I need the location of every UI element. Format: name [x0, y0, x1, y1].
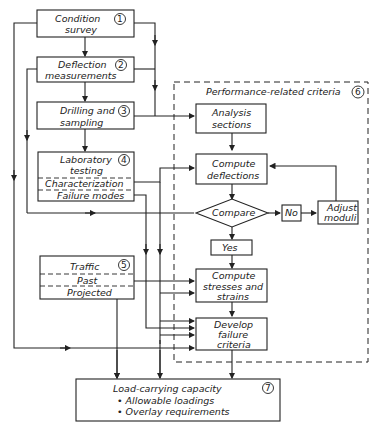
condition-survey-box: Condition survey 1: [37, 10, 134, 37]
develop-failure-criteria-box: Develop failure criteria: [196, 318, 267, 350]
bullet-overlay-requirements: • Overlay requirements: [117, 406, 230, 417]
box-label: Condition: [55, 13, 100, 24]
yes-label: Yes: [222, 242, 238, 253]
compute-stresses-box: Compute stresses and strains: [196, 269, 267, 302]
flowchart: Performance-related criteria 6: [0, 0, 381, 432]
analysis-sections-box: Analysis sections: [196, 104, 266, 133]
box-label: sections: [212, 119, 251, 130]
box-label: deflections: [207, 170, 259, 181]
step-number-4: 4: [121, 155, 127, 165]
compare-decision: Compare: [196, 199, 268, 227]
box-label: strains: [217, 291, 249, 302]
failure-modes-label: Failure modes: [57, 190, 124, 201]
box-label: moduli: [324, 212, 357, 223]
step-number-6: 6: [355, 87, 361, 97]
box-label: testing: [70, 165, 103, 176]
box-label: Compute: [212, 158, 255, 169]
box-label: Analysis: [211, 107, 251, 118]
box-label: Compute: [212, 270, 255, 281]
load-capacity-title: Load-carrying capacity: [113, 383, 222, 394]
step-number-3: 3: [121, 106, 127, 116]
adjust-moduli-box: Adjust moduli: [318, 201, 358, 224]
box-label: measurements: [45, 70, 116, 81]
no-box: No: [282, 205, 301, 221]
box-label: Traffic: [70, 261, 100, 272]
box-label: criteria: [217, 339, 251, 350]
step-number-7: 7: [265, 383, 271, 393]
step-number-5: 5: [121, 260, 127, 270]
box-label: Drilling and: [60, 105, 116, 116]
compare-label: Compare: [212, 207, 255, 218]
drilling-sampling-box: Drilling and sampling 3: [37, 102, 134, 129]
performance-group-title: Performance-related criteria: [206, 86, 341, 97]
projected-label: Projected: [67, 287, 113, 298]
no-label: No: [285, 207, 298, 218]
step-number-2: 2: [118, 60, 124, 70]
compute-deflections-box: Compute deflections: [196, 154, 267, 184]
characterization-label: Characterization: [45, 178, 124, 189]
bullet-allowable-loadings: • Allowable loadings: [117, 395, 214, 406]
yes-box: Yes: [211, 240, 252, 255]
box-label: Deflection: [58, 59, 107, 70]
deflection-measurements-box: Deflection measurements 2: [37, 57, 134, 82]
step-number-1: 1: [117, 14, 123, 24]
past-label: Past: [77, 275, 98, 286]
load-carrying-capacity-box: Load-carrying capacity • Allowable loadi…: [76, 379, 280, 421]
laboratory-testing-box: Laboratory testing 4 Characterization Fa…: [38, 152, 134, 201]
traffic-box: Traffic 5 Past Projected: [40, 256, 134, 299]
box-label: sampling: [60, 117, 103, 128]
box-label: survey: [65, 24, 97, 35]
box-label: Laboratory: [60, 154, 112, 165]
